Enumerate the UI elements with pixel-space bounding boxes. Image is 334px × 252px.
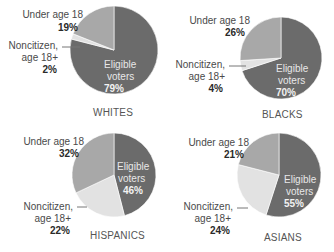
eligible-label-2: voters: [107, 71, 134, 82]
under18-label: Under age 18: [23, 136, 84, 147]
eligible-value: 70%: [276, 87, 296, 98]
eligible-label: Eligible: [117, 161, 150, 172]
under18-value: 32%: [59, 148, 79, 159]
noncitizen-value: 4%: [209, 83, 224, 94]
under18-label: Under age 18: [189, 15, 250, 26]
eligible-label: Eligible: [104, 59, 137, 70]
noncitizen-value: 2%: [43, 64, 58, 75]
under18-value: 26%: [225, 27, 245, 38]
pie-chart-grid: Under age 18 19% Noncitizen, age 18+ 2% …: [0, 0, 334, 252]
eligible-value: 46%: [123, 185, 143, 196]
pie-asians: Under age 18 21% Noncitizen, age 18+ 24%…: [184, 133, 321, 243]
eligible-value: 55%: [284, 198, 304, 209]
group-title: ASIANS: [264, 232, 302, 243]
noncitizen-label: Noncitizen,: [9, 40, 58, 51]
group-title: BLACKS: [262, 109, 303, 120]
eligible-label-2: voters: [118, 173, 145, 184]
under18-label: Under age 18: [22, 9, 83, 20]
noncitizen-label-2: age 18+: [189, 71, 226, 82]
noncitizen-label-2: age 18+: [22, 52, 59, 63]
noncitizen-label-2: age 18+: [195, 213, 232, 224]
group-title: HISPANICS: [90, 230, 145, 241]
eligible-label: Eligible: [284, 174, 317, 185]
noncitizen-value: 24%: [210, 225, 230, 236]
noncitizen-value: 22%: [50, 225, 70, 236]
under18-value: 19%: [58, 22, 78, 33]
pie-blacks: Under age 18 26% Noncitizen, age 18+ 4% …: [176, 15, 322, 120]
noncitizen-label: Noncitizen,: [24, 201, 73, 212]
under18-label: Under age 18: [188, 137, 249, 148]
noncitizen-label: Noncitizen,: [176, 59, 225, 70]
group-title: WHITES: [93, 107, 133, 118]
pie-whites: Under age 18 19% Noncitizen, age 18+ 2% …: [9, 6, 158, 118]
eligible-value: 79%: [104, 83, 124, 94]
under18-value: 21%: [224, 149, 244, 160]
pie-hispanics: Under age 18 32% Noncitizen, age 18+ 22%…: [23, 133, 156, 241]
eligible-label-2: voters: [286, 186, 313, 197]
eligible-label: Eligible: [276, 63, 309, 74]
eligible-label-2: voters: [278, 75, 305, 86]
noncitizen-label-2: age 18+: [35, 213, 72, 224]
noncitizen-label: Noncitizen,: [184, 201, 233, 212]
